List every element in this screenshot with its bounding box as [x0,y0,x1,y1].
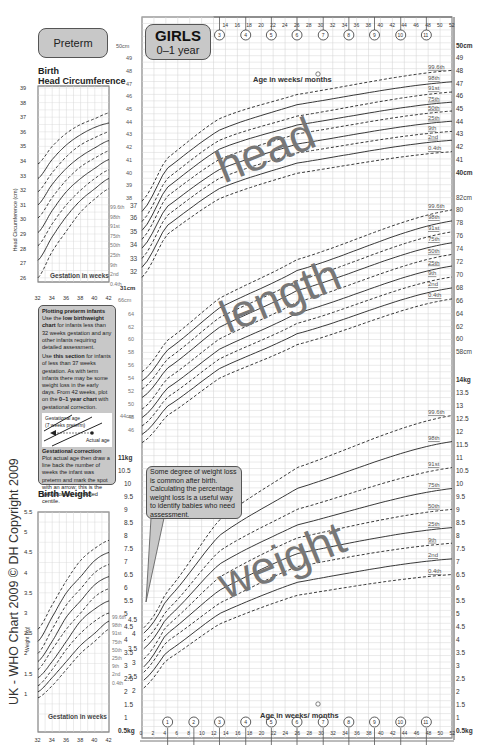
info-text: Use [42,353,54,359]
info-text: Use the [42,315,63,321]
info-text-bold: 0–1 year chart [59,396,97,402]
diagram-label-actual-age: Actual age [86,437,110,444]
svg-text:11: 11 [423,719,428,725]
svg-text:32: 32 [35,737,41,743]
preterm-head-xlabel: Gestation in weeks [50,272,109,279]
svg-text:11: 11 [423,32,428,38]
svg-text:32: 32 [330,22,336,28]
preterm-weight-xlabel: Gestation in weeks [48,713,107,720]
svg-text:62: 62 [128,324,134,330]
svg-text:4: 4 [132,630,136,637]
svg-text:18: 18 [246,22,252,28]
svg-text:38: 38 [77,295,83,301]
svg-text:50: 50 [437,22,443,28]
svg-text:36: 36 [354,730,360,736]
age-axis-label-bottom: Age in weeks/ months [260,711,339,720]
svg-text:1: 1 [166,719,169,725]
svg-text:45: 45 [456,105,464,112]
svg-text:20: 20 [259,730,265,736]
svg-text:66: 66 [456,297,464,304]
svg-text:13.5: 13.5 [456,389,469,396]
svg-text:36: 36 [63,737,69,743]
svg-text:98th: 98th [428,435,440,441]
svg-text:42: 42 [456,143,464,150]
svg-text:50cm: 50cm [456,42,473,49]
svg-text:4: 4 [456,636,460,643]
svg-text:18: 18 [247,730,253,736]
svg-text:6: 6 [456,584,460,591]
svg-text:68: 68 [456,284,464,291]
svg-text:49: 49 [456,54,464,61]
callout-text: Some degree of weight loss is common aft… [150,468,236,518]
svg-text:50th: 50th [110,242,120,248]
preterm-head-title-line2: Head Circumference [38,76,126,86]
svg-text:2: 2 [132,687,136,694]
svg-text:99.6th: 99.6th [428,64,445,70]
svg-text:1: 1 [24,691,28,697]
preterm-info-box: Plotting preterm infants Use the low bir… [38,305,116,485]
svg-text:38: 38 [366,730,372,736]
svg-text:46: 46 [413,22,419,28]
svg-text:14kg: 14kg [456,376,471,384]
svg-text:52: 52 [449,22,455,28]
svg-text:40: 40 [91,295,97,301]
svg-text:4: 4 [163,730,166,736]
svg-text:8: 8 [124,532,128,539]
svg-text:46: 46 [456,92,464,99]
svg-text:5.5: 5.5 [124,597,133,604]
svg-text:29: 29 [20,231,26,237]
svg-text:64: 64 [128,311,134,317]
girls-subtitle: 0–1 year [146,44,210,57]
svg-text:44: 44 [456,118,464,125]
svg-text:32: 32 [35,295,41,301]
svg-text:91st: 91st [110,223,120,229]
svg-text:30: 30 [318,22,324,28]
svg-text:66cm: 66cm [118,297,132,303]
svg-text:49: 49 [126,55,132,61]
svg-text:9th: 9th [428,125,436,131]
info-text-bold: this section [54,353,85,359]
svg-text:50: 50 [128,401,134,407]
svg-text:34: 34 [49,737,55,743]
svg-text:4: 4 [244,32,247,38]
svg-text:3.5: 3.5 [456,649,465,656]
svg-text:47: 47 [126,81,132,87]
svg-text:9th: 9th [110,262,117,268]
svg-text:8: 8 [347,32,350,38]
svg-text:11.5: 11.5 [456,441,469,448]
svg-text:2: 2 [456,688,460,695]
svg-text:46: 46 [414,730,420,736]
svg-text:2nd: 2nd [110,271,119,277]
svg-text:1: 1 [124,714,128,721]
svg-text:42: 42 [106,295,112,301]
svg-text:13: 13 [456,402,464,409]
svg-text:47: 47 [456,80,464,87]
svg-text:8.5: 8.5 [124,519,133,526]
svg-text:25th: 25th [110,252,120,258]
svg-text:10: 10 [398,719,404,725]
svg-text:56: 56 [128,362,134,368]
svg-text:43: 43 [456,130,464,137]
svg-text:46: 46 [126,93,132,99]
svg-text:6.5: 6.5 [456,571,465,578]
girls-title: GIRLS [146,27,210,44]
svg-text:2nd: 2nd [428,281,438,287]
svg-text:9th: 9th [428,270,436,276]
svg-text:0.4th: 0.4th [428,568,441,574]
svg-text:50cm: 50cm [116,43,130,49]
svg-text:10: 10 [456,480,464,487]
svg-text:34: 34 [49,295,55,301]
svg-text:10: 10 [199,730,205,736]
svg-text:0.5kg: 0.5kg [456,727,473,735]
girls-title-box: GIRLS 0–1 year [145,24,211,60]
svg-text:3: 3 [132,659,136,666]
svg-text:52: 52 [128,388,134,394]
weight-loss-callout: Some degree of weight loss is common aft… [146,466,242,519]
svg-text:2nd: 2nd [428,552,438,558]
svg-text:20: 20 [258,22,264,28]
svg-text:31: 31 [20,202,26,208]
svg-text:30: 30 [20,216,26,222]
svg-text:7.5: 7.5 [124,545,133,552]
svg-text:72: 72 [456,258,464,265]
svg-text:42: 42 [106,737,112,743]
